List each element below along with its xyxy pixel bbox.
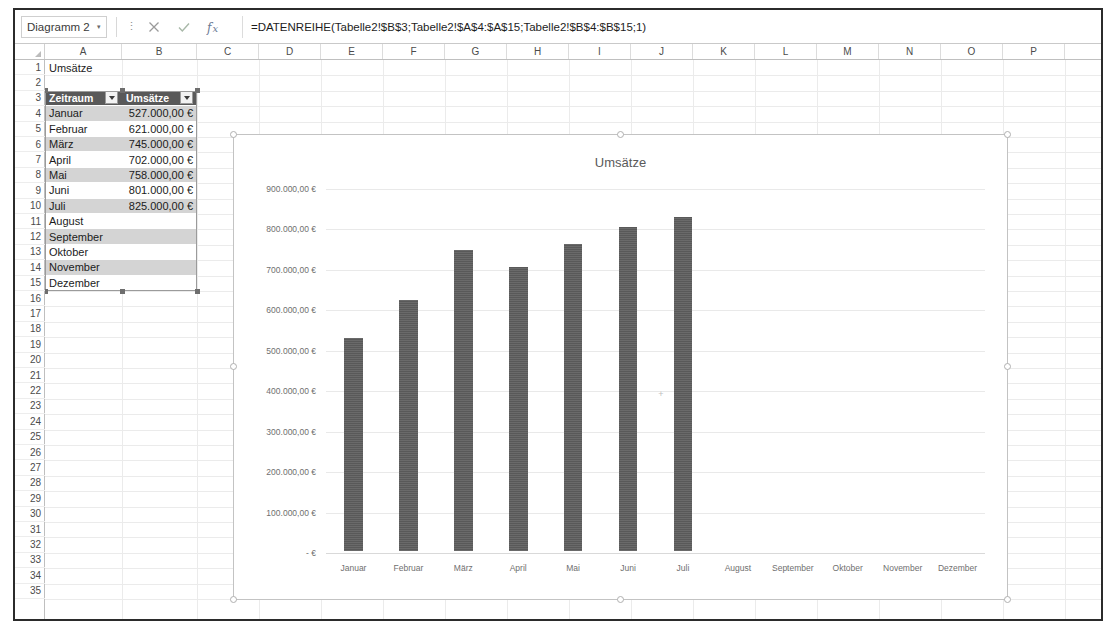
- row-header-27[interactable]: 27: [15, 460, 45, 475]
- row-header-2[interactable]: 2: [15, 75, 45, 90]
- row-header-4[interactable]: 4: [15, 106, 45, 121]
- column-header-o[interactable]: O: [941, 44, 1003, 59]
- table-cell-zeitraum[interactable]: März: [45, 137, 122, 152]
- table-resize-handle[interactable]: [45, 289, 48, 294]
- table-header-zeitraum[interactable]: Zeitraum: [45, 91, 122, 106]
- table-cell-umsatz[interactable]: [122, 260, 197, 275]
- chart-bar[interactable]: [399, 300, 418, 551]
- column-header-e[interactable]: E: [321, 44, 383, 59]
- column-header-d[interactable]: D: [259, 44, 321, 59]
- row-header-18[interactable]: 18: [15, 322, 45, 337]
- resize-handle-e[interactable]: [1004, 363, 1011, 370]
- resize-handle-sw[interactable]: [230, 596, 237, 603]
- expand-dots-icon[interactable]: ⋮: [126, 24, 136, 29]
- table-cell-umsatz[interactable]: 801.000,00 €: [122, 183, 197, 198]
- row-header-21[interactable]: 21: [15, 368, 45, 383]
- column-header-f[interactable]: F: [383, 44, 445, 59]
- row-header-15[interactable]: 15: [15, 276, 45, 291]
- table-resize-handle[interactable]: [195, 88, 200, 93]
- table-cell-zeitraum[interactable]: April: [45, 152, 122, 167]
- table-cell-umsatz[interactable]: 702.000,00 €: [122, 152, 197, 167]
- table-cell-zeitraum[interactable]: Oktober: [45, 245, 122, 260]
- resize-handle-w[interactable]: [230, 363, 237, 370]
- row-header-33[interactable]: 33: [15, 553, 45, 568]
- table-resize-handle[interactable]: [120, 88, 125, 93]
- table-cell-umsatz[interactable]: 621.000,00 €: [122, 122, 197, 137]
- table-cell-zeitraum[interactable]: September: [45, 229, 122, 244]
- row-header-25[interactable]: 25: [15, 430, 45, 445]
- row-header-5[interactable]: 5: [15, 122, 45, 137]
- row-header-12[interactable]: 12: [15, 229, 45, 244]
- column-header-i[interactable]: I: [569, 44, 631, 59]
- table-cell-umsatz[interactable]: 825.000,00 €: [122, 199, 197, 214]
- row-header-30[interactable]: 30: [15, 507, 45, 522]
- row-header-31[interactable]: 31: [15, 522, 45, 537]
- row-header-24[interactable]: 24: [15, 414, 45, 429]
- table-resize-handle[interactable]: [45, 88, 48, 93]
- row-header-3[interactable]: 3: [15, 91, 45, 106]
- column-header-c[interactable]: C: [197, 44, 259, 59]
- table-cell-zeitraum[interactable]: Februar: [45, 122, 122, 137]
- table-cell-umsatz[interactable]: [122, 245, 197, 260]
- column-header-k[interactable]: K: [693, 44, 755, 59]
- column-header-j[interactable]: J: [631, 44, 693, 59]
- table-cell-umsatz[interactable]: 758.000,00 €: [122, 168, 197, 183]
- formula-input[interactable]: =DATENREIHE(Tabelle2!$B$3;Tabelle2!$A$4:…: [242, 16, 1093, 38]
- cell-a1[interactable]: Umsätze: [45, 60, 122, 75]
- filter-dropdown-icon[interactable]: [105, 91, 118, 104]
- table-cell-umsatz[interactable]: 745.000,00 €: [122, 137, 197, 152]
- column-header-a[interactable]: A: [45, 44, 122, 59]
- row-header-13[interactable]: 13: [15, 245, 45, 260]
- row-header-20[interactable]: 20: [15, 353, 45, 368]
- name-box[interactable]: Diagramm 2 ▾: [21, 16, 107, 38]
- fx-icon[interactable]: f x: [206, 19, 222, 35]
- row-header-26[interactable]: 26: [15, 445, 45, 460]
- row-header-7[interactable]: 7: [15, 152, 45, 167]
- table-cell-zeitraum[interactable]: November: [45, 260, 122, 275]
- table-cell-zeitraum[interactable]: Januar: [45, 106, 122, 121]
- table-cell-umsatz[interactable]: 527.000,00 €: [122, 106, 197, 121]
- cancel-icon[interactable]: [146, 19, 162, 35]
- chart-bar[interactable]: [454, 250, 473, 551]
- row-header-11[interactable]: 11: [15, 214, 45, 229]
- chart-plot-area[interactable]: - €100.000,00 €200.000,00 €300.000,00 €4…: [234, 135, 1007, 599]
- table-cell-zeitraum[interactable]: Juni: [45, 183, 122, 198]
- resize-handle-nw[interactable]: [230, 131, 237, 138]
- table-cell-zeitraum[interactable]: Dezember: [45, 276, 122, 291]
- row-header-32[interactable]: 32: [15, 537, 45, 552]
- row-header-22[interactable]: 22: [15, 383, 45, 398]
- table-cell-zeitraum[interactable]: August: [45, 214, 122, 229]
- column-header-h[interactable]: H: [507, 44, 569, 59]
- column-header-p[interactable]: P: [1003, 44, 1065, 59]
- table-cell-umsatz[interactable]: [122, 229, 197, 244]
- chart-object[interactable]: Umsätze - €100.000,00 €200.000,00 €300.0…: [233, 134, 1008, 600]
- chart-bar[interactable]: [619, 227, 638, 551]
- select-all-corner[interactable]: [15, 44, 45, 59]
- row-header-1[interactable]: 1: [15, 60, 45, 75]
- resize-handle-se[interactable]: [1004, 596, 1011, 603]
- column-header-n[interactable]: N: [879, 44, 941, 59]
- resize-handle-ne[interactable]: [1004, 131, 1011, 138]
- column-header-g[interactable]: G: [445, 44, 507, 59]
- column-header-l[interactable]: L: [755, 44, 817, 59]
- worksheet-grid[interactable]: UmsätzeZeitraumUmsätzeJanuar527.000,00 €…: [45, 60, 1101, 619]
- confirm-icon[interactable]: [176, 19, 192, 35]
- chart-bar[interactable]: [564, 244, 583, 551]
- filter-dropdown-icon[interactable]: [180, 91, 193, 104]
- row-header-8[interactable]: 8: [15, 168, 45, 183]
- row-header-28[interactable]: 28: [15, 476, 45, 491]
- chart-bar[interactable]: [509, 267, 528, 551]
- row-header-23[interactable]: 23: [15, 399, 45, 414]
- resize-handle-s[interactable]: [617, 596, 624, 603]
- column-header-m[interactable]: M: [817, 44, 879, 59]
- table-cell-zeitraum[interactable]: Juli: [45, 199, 122, 214]
- table-resize-handle[interactable]: [120, 289, 125, 294]
- chevron-down-icon[interactable]: ▾: [97, 23, 101, 31]
- chart-bar[interactable]: [674, 217, 693, 551]
- table-cell-umsatz[interactable]: [122, 214, 197, 229]
- row-header-6[interactable]: 6: [15, 137, 45, 152]
- row-header-34[interactable]: 34: [15, 568, 45, 583]
- row-header-9[interactable]: 9: [15, 183, 45, 198]
- row-header-16[interactable]: 16: [15, 291, 45, 306]
- row-header-35[interactable]: 35: [15, 584, 45, 599]
